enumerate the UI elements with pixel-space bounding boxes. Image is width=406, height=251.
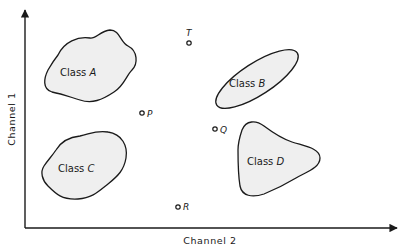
class-c-region: Class C <box>42 131 126 199</box>
x-axis-label: Channel 2 <box>183 235 236 246</box>
point-q: Q <box>213 125 227 135</box>
class-d-label: Class D <box>247 156 285 167</box>
class-c-label: Class C <box>58 163 95 174</box>
point-t-label: T <box>186 28 193 38</box>
point-r-marker <box>176 205 180 209</box>
point-r-label: R <box>183 202 189 212</box>
point-q-label: Q <box>220 125 227 135</box>
point-r: R <box>176 202 189 212</box>
point-t: T <box>186 28 193 45</box>
class-a-outline <box>45 30 136 102</box>
point-p: P <box>140 109 153 119</box>
point-t-marker <box>187 41 191 45</box>
class-a-label: Class A <box>60 67 97 78</box>
class-b-region: Class B <box>208 39 306 118</box>
class-b-label: Class B <box>229 78 266 89</box>
point-p-label: P <box>147 109 153 119</box>
point-p-marker <box>140 111 144 115</box>
class-d-region: Class D <box>238 122 320 196</box>
class-a-region: Class A <box>45 30 136 102</box>
point-q-marker <box>213 127 217 131</box>
feature-space-diagram: Channel 1 Channel 2 Class A Class B Clas… <box>0 0 406 251</box>
y-axis-label: Channel 1 <box>6 92 17 145</box>
